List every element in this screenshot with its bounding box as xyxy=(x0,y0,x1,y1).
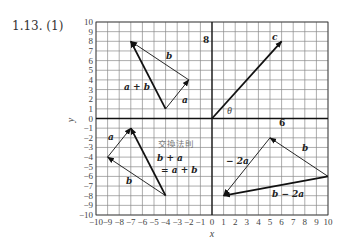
label-c: c xyxy=(272,32,278,42)
x-tick-label: 6 xyxy=(279,217,284,227)
y-tick-label: −2 xyxy=(83,133,93,143)
label-a-bottom-left: a xyxy=(108,132,114,142)
x-tick-label: 9 xyxy=(314,217,319,227)
x-tick-label: −7 xyxy=(126,217,136,227)
problem-title: 1.13. (1) xyxy=(12,19,63,33)
vector-a-plus-b xyxy=(131,41,166,109)
y-tick-label: 8 xyxy=(89,36,94,46)
x-tick-label: 10 xyxy=(324,217,334,227)
x-axis-label: x xyxy=(209,228,215,239)
y-tick-label: 10 xyxy=(84,17,94,27)
x-tick-label: −9 xyxy=(103,217,113,227)
x-tick-label: −8 xyxy=(114,217,124,227)
y-tick-label: −5 xyxy=(83,162,93,172)
y-tick-label: 3 xyxy=(89,85,94,95)
label-b-top: b xyxy=(166,51,172,61)
label-b-minus-2a: b − 2a xyxy=(272,189,304,199)
vector-diagram: 1.13. (1) 109876543210−1−2−3−4−5−6−7−8−9… xyxy=(0,0,352,246)
y-tick-label: −7 xyxy=(83,181,93,191)
x-tick-label: 2 xyxy=(233,217,238,227)
y-tick-label: −4 xyxy=(83,152,93,162)
y-tick-label: 4 xyxy=(89,75,94,85)
x-tick-label: −4 xyxy=(161,217,171,227)
y-tick-label: −3 xyxy=(83,142,93,152)
y-tick-label: 0 xyxy=(89,114,94,124)
x-tick-label: −6 xyxy=(138,217,148,227)
x-tick-label: −1 xyxy=(196,217,206,227)
y-axis-label: y xyxy=(65,117,76,123)
label-c-x-component: 6 xyxy=(279,118,285,128)
x-tick-label: 8 xyxy=(303,217,308,227)
x-tick-label: −2 xyxy=(184,217,194,227)
x-tick-label: 7 xyxy=(291,217,296,227)
x-tick-label: −3 xyxy=(172,217,182,227)
y-tick-label: 2 xyxy=(89,94,94,104)
label-a-plus-b: a + b xyxy=(124,82,150,92)
label-commutative-law: 交換法則 xyxy=(158,139,194,149)
x-tick-label: 4 xyxy=(256,217,261,227)
y-tick-label: 7 xyxy=(89,46,94,56)
label-b-bottom-left: b xyxy=(126,176,132,186)
y-tick-label: 9 xyxy=(89,27,94,37)
x-tick-label: −5 xyxy=(149,217,159,227)
label-b-plus-a: b + a xyxy=(157,153,183,163)
x-tick-label: 5 xyxy=(268,217,273,227)
y-tick-label: −6 xyxy=(83,171,93,181)
label-eq-a-plus-b: = a + b xyxy=(161,165,198,175)
x-tick-label: 3 xyxy=(245,217,250,227)
y-tick-label: 1 xyxy=(89,104,94,114)
x-tick-label: 0 xyxy=(210,217,215,227)
y-tick-label: −8 xyxy=(83,191,93,201)
y-tick-label: −9 xyxy=(83,200,93,210)
label-c-y-component: 8 xyxy=(203,35,209,45)
label-b-bottom-right: b xyxy=(302,143,308,153)
y-tick-label: −1 xyxy=(83,123,93,133)
label-a-top: a xyxy=(182,95,188,105)
x-tick-label: −10 xyxy=(89,217,104,227)
y-tick-label: 5 xyxy=(89,65,94,75)
label-theta: θ xyxy=(227,105,232,116)
y-tick-label: 6 xyxy=(89,56,94,66)
label-minus-2a: − 2a xyxy=(226,156,249,166)
x-tick-label: 1 xyxy=(221,217,226,227)
